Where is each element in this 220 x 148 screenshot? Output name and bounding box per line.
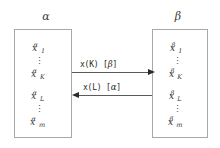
arrow-head-right-icon [148, 69, 155, 75]
diagram-canvas: α β xα1 ⋮ xαK xαL ⋮ xαm xβ1 ⋮ xβK xβL ⋮ [0, 0, 220, 148]
group-label-alpha: α [34, 11, 58, 23]
entry-beta-vdots-upper: ⋮ [173, 58, 182, 65]
entry-alpha-K: xαK [31, 70, 45, 80]
entry-superscript: β [172, 41, 176, 49]
entry-superscript: β [170, 115, 174, 123]
entry-superscript: β [171, 67, 175, 75]
arrow-label-prefix: x(K) [ [80, 60, 108, 69]
entry-superscript: β [171, 89, 175, 97]
entry-subscript: K [40, 73, 45, 81]
entry-beta-m: xβm [168, 118, 183, 128]
entry-alpha-vdots-upper: ⋮ [35, 58, 44, 65]
entry-beta-1: xβ1 [170, 44, 183, 54]
entry-beta-L: xβL [169, 92, 182, 102]
entry-alpha-m: xαm [30, 118, 46, 128]
entry-superscript: α [33, 67, 37, 75]
entry-subscript: m [39, 121, 45, 129]
entry-subscript: L [40, 95, 44, 103]
entry-alpha-1: xα1 [32, 44, 46, 54]
arrow-label-suffix: ] [116, 83, 121, 92]
entry-subscript: L [177, 95, 181, 103]
entry-superscript: α [34, 41, 38, 49]
arrow-head-left-icon [72, 92, 79, 98]
entry-superscript: α [32, 115, 36, 123]
entry-alpha-L: xαL [31, 92, 45, 102]
entry-subscript: m [176, 121, 182, 129]
arrow-label-beta-to-alpha: x(L) [α] [83, 83, 121, 92]
vector-box-beta: xβ1 ⋮ xβK xβL ⋮ xβm [152, 29, 208, 138]
entry-subscript: 1 [41, 47, 45, 55]
entry-subscript: K [177, 73, 182, 81]
arrow-line-beta-to-alpha [79, 95, 152, 96]
arrow-label-prefix: x(L) [ [83, 83, 111, 92]
arrow-label-alpha-to-beta: x(K) [β] [80, 60, 117, 69]
vector-box-alpha: xα1 ⋮ xαK xαL ⋮ xαm [14, 29, 72, 138]
entry-superscript: α [33, 89, 37, 97]
entry-subscript: 1 [178, 47, 182, 55]
group-label-beta: β [166, 11, 190, 23]
arrow-line-alpha-to-beta [72, 72, 150, 73]
arrow-label-suffix: ] [112, 60, 117, 69]
entry-beta-vdots-lower: ⋮ [173, 106, 182, 113]
entry-beta-K: xβK [169, 70, 183, 80]
entry-alpha-vdots-lower: ⋮ [35, 106, 44, 113]
